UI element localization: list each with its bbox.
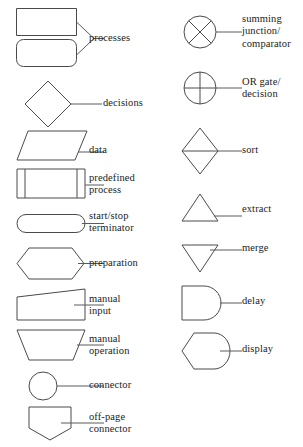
legend-label-decision: decisions [103, 97, 143, 109]
legend-entry-data: data [0, 130, 152, 166]
legend-label-process: processes [89, 32, 130, 44]
flowchart-legend: processes decisions data [0, 0, 303, 447]
delay-symbol [180, 284, 290, 322]
legend-label-summing-junction: summing junction/ comparator [242, 13, 291, 50]
legend-entry-connector: connector [0, 370, 152, 402]
legend-column-right: summing junction/ comparator OR gate/ de… [152, 0, 303, 447]
legend-entry-off-page-connector: off-page connector [0, 406, 152, 444]
legend-entry-predefined-process: predefined process [0, 168, 152, 204]
legend-entry-extract: extract [152, 192, 303, 224]
legend-entry-preparation: preparation [0, 246, 152, 284]
legend-label-manual-input: manual input [89, 293, 121, 318]
legend-entry-sort: sort [152, 126, 303, 176]
legend-entry-manual-input: manual input [0, 288, 152, 326]
legend-label-predefined-process: predefined process [89, 172, 135, 197]
legend-label-terminator: start/stop terminator [89, 210, 134, 235]
extract-symbol [180, 192, 290, 224]
display-symbol [180, 330, 290, 372]
legend-label-extract: extract [242, 203, 271, 215]
legend-label-sort: sort [242, 144, 258, 156]
legend-entry-manual-operation: manual operation [0, 328, 152, 366]
legend-entry-decision: decisions [0, 80, 152, 128]
sort-symbol [180, 126, 290, 176]
legend-entry-process: processes [0, 8, 152, 70]
merge-symbol [180, 242, 290, 274]
legend-label-preparation: preparation [89, 257, 138, 269]
legend-label-data: data [89, 144, 107, 156]
legend-entry-summing-junction: summing junction/ comparator [152, 12, 303, 52]
legend-label-or-gate: OR gate/ decision [242, 76, 280, 101]
data-symbol [16, 130, 126, 166]
legend-label-display: display [242, 343, 273, 355]
legend-label-delay: delay [242, 295, 265, 307]
legend-entry-terminator: start/stop terminator [0, 210, 152, 240]
legend-label-merge: merge [242, 242, 269, 254]
legend-label-manual-operation: manual operation [89, 333, 130, 358]
legend-entry-display: display [152, 330, 303, 372]
legend-label-connector: connector [89, 379, 131, 391]
legend-label-off-page-connector: off-page connector [89, 411, 131, 436]
legend-column-left: processes decisions data [0, 0, 152, 447]
legend-entry-or-gate: OR gate/ decision [152, 68, 303, 108]
legend-entry-delay: delay [152, 284, 303, 322]
legend-entry-merge: merge [152, 242, 303, 274]
